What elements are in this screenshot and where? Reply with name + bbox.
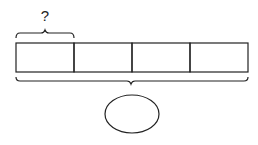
tape-bar bbox=[16, 43, 248, 72]
bottom-brace bbox=[16, 77, 248, 84]
top-brace bbox=[16, 30, 74, 38]
tape-segment-3 bbox=[132, 43, 190, 72]
answer-oval bbox=[105, 95, 159, 133]
question-label: ? bbox=[41, 7, 49, 24]
tape-segment-4 bbox=[190, 43, 248, 72]
tape-segment-1 bbox=[16, 43, 74, 72]
tape-diagram: ? bbox=[0, 0, 258, 145]
tape-segment-2 bbox=[74, 43, 132, 72]
